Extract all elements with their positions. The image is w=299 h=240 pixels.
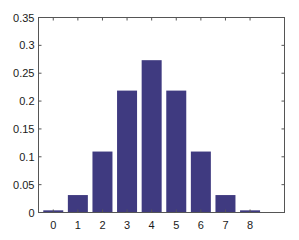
- x-tick-label: 4: [149, 219, 155, 231]
- y-tick-label: 0.3: [19, 39, 34, 51]
- x-tick-label: 8: [247, 219, 253, 231]
- y-tick-label: 0.1: [19, 151, 34, 163]
- bar-4: [142, 60, 162, 212]
- y-tick-label: 0.25: [13, 67, 34, 79]
- bar-chart: 00.050.10.150.20.250.30.35 012345678: [0, 0, 299, 240]
- x-tick-label: 1: [75, 219, 81, 231]
- bars-group: [43, 60, 260, 212]
- bar-5: [166, 91, 186, 213]
- y-tick-label: 0.15: [13, 123, 34, 135]
- x-tick-label: 2: [99, 219, 105, 231]
- y-tick-label: 0.35: [13, 12, 34, 24]
- x-tick-label: 6: [198, 219, 204, 231]
- y-tick-label: 0: [28, 207, 34, 219]
- y-tick-label: 0.05: [13, 179, 34, 191]
- bar-6: [191, 152, 211, 213]
- y-tick-label: 0.2: [19, 95, 34, 107]
- x-tick-label: 3: [124, 219, 130, 231]
- bar-3: [117, 91, 137, 213]
- bar-2: [92, 152, 112, 213]
- x-tick-label: 7: [222, 219, 228, 231]
- x-tick-label: 0: [50, 219, 56, 231]
- x-tick-label: 5: [173, 219, 179, 231]
